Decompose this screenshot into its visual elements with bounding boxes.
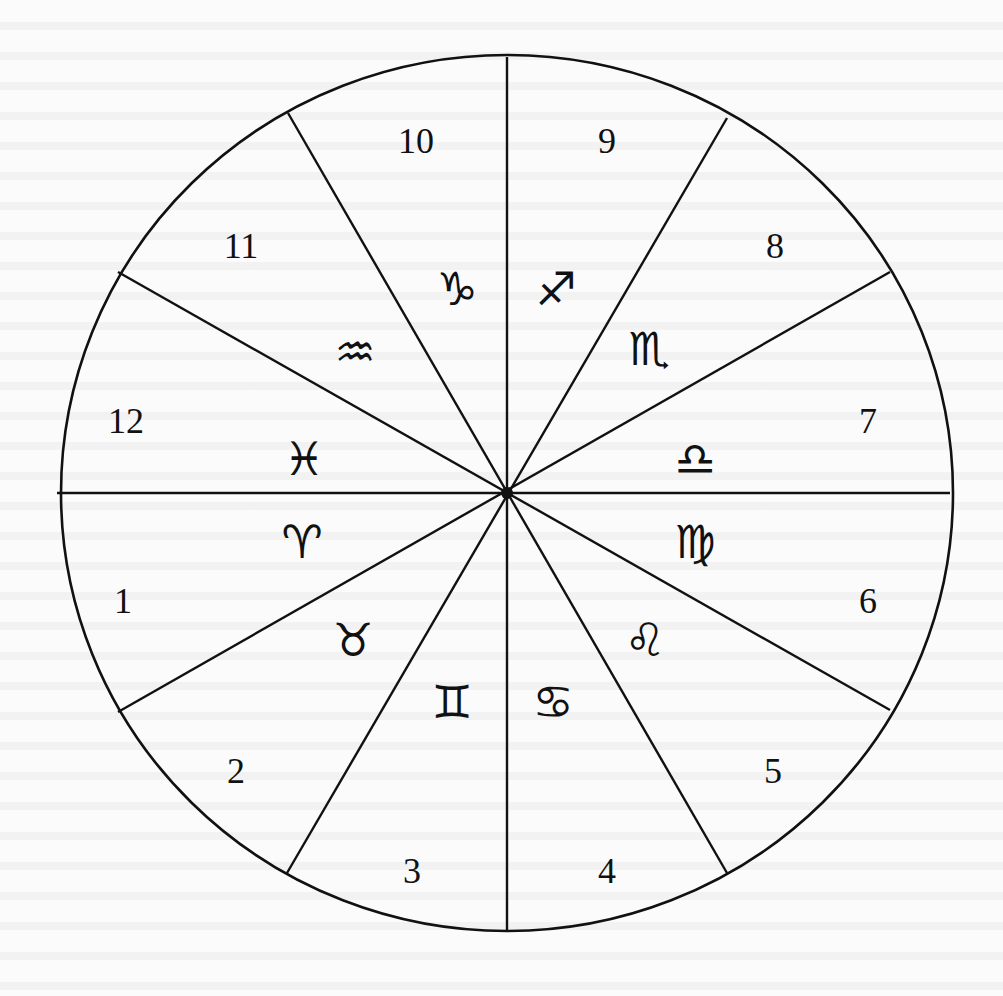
house-number-7: 7 <box>859 401 877 441</box>
sagittarius-icon: ♐︎ <box>535 262 576 316</box>
cancer-icon: ♋︎ <box>532 675 573 729</box>
aries-icon: ♈︎ <box>281 515 322 569</box>
house-number-5: 5 <box>764 751 782 791</box>
house-number-9: 9 <box>598 121 616 161</box>
libra-icon: ♎︎ <box>674 432 715 486</box>
scorpio-icon: ♏︎ <box>628 322 669 376</box>
taurus-icon: ♉︎ <box>332 613 373 667</box>
house-number-4: 4 <box>598 851 616 891</box>
aquarius-icon: ♒︎ <box>334 325 375 379</box>
house-number-10: 10 <box>398 121 434 161</box>
virgo-icon: ♍︎ <box>674 515 715 569</box>
house-number-6: 6 <box>859 581 877 621</box>
house-number-2: 2 <box>227 751 245 791</box>
house-numbers: 123456789101112 <box>108 121 877 891</box>
pisces-icon: ♓︎ <box>283 432 324 486</box>
capricorn-icon: ♑︎ <box>436 262 477 316</box>
leo-icon: ♌︎ <box>624 613 665 667</box>
gemini-icon: ♊︎ <box>431 675 472 729</box>
house-number-8: 8 <box>766 226 784 266</box>
house-number-12: 12 <box>108 401 144 441</box>
house-number-11: 11 <box>224 226 259 266</box>
center-point <box>501 487 513 499</box>
house-number-3: 3 <box>403 851 421 891</box>
house-number-1: 1 <box>114 581 132 621</box>
house-chart: 123456789101112 ♈︎♉︎♊︎♋︎♌︎♍︎♎︎♏︎♐︎♑︎♒︎♓︎ <box>0 0 1003 996</box>
